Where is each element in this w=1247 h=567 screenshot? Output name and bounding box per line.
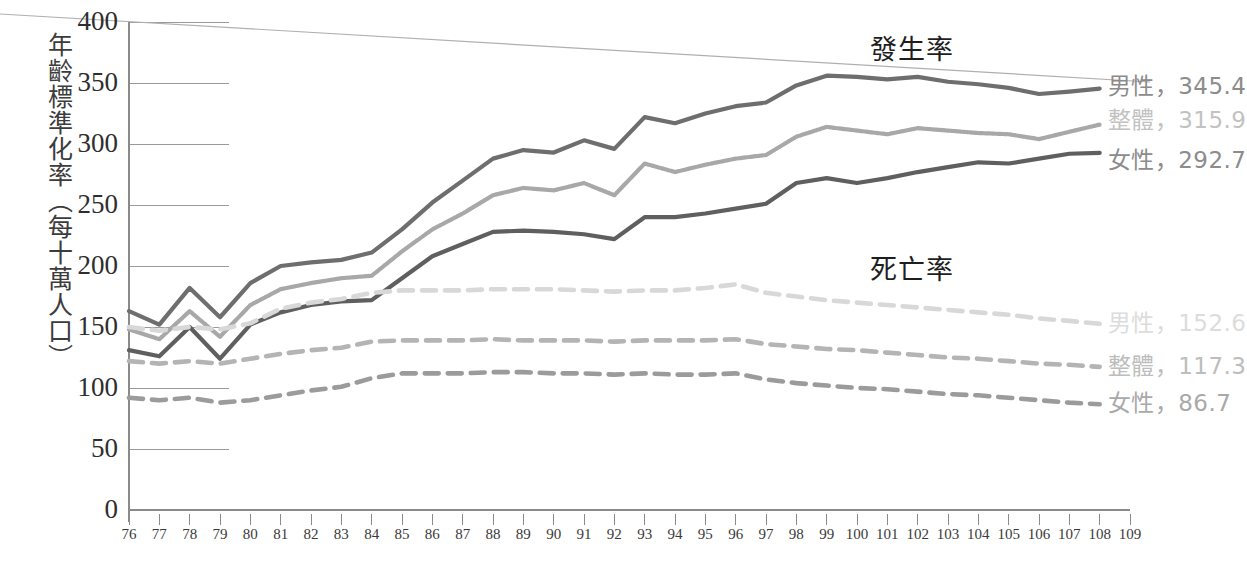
series-lines (129, 76, 1100, 405)
incidence-group-title: 發生率 (870, 28, 954, 67)
x-tick-label: 109 (1110, 527, 1150, 542)
y-tick-label: 150 (58, 313, 118, 340)
series-line (129, 153, 1100, 359)
legend-label-incidence-female: 女性，292.7 (1108, 149, 1247, 172)
y-tick-label: 0 (58, 496, 118, 523)
gridlines (129, 22, 229, 510)
legend-label-incidence-male: 男性，345.4 (1108, 75, 1247, 98)
y-tick-label: 250 (58, 191, 118, 218)
y-tick-label: 350 (58, 69, 118, 96)
series-line (129, 76, 1100, 325)
mortality-group-title: 死亡率 (870, 248, 954, 287)
y-tick-label: 100 (58, 374, 118, 401)
y-tick-label: 400 (58, 8, 118, 35)
legend-label-mortality-total: 整體，117.3 (1108, 355, 1247, 378)
x-tick-marks (129, 514, 1130, 525)
series-line (129, 339, 1100, 367)
y-tick-label: 200 (58, 252, 118, 279)
y-tick-label: 300 (58, 130, 118, 157)
series-line (129, 372, 1100, 404)
scan-artifact-line (0, 14, 1150, 82)
legend-label-mortality-female: 女性，86.7 (1108, 392, 1232, 415)
axis-lines (129, 22, 1130, 522)
series-line (129, 125, 1100, 340)
legend-label-incidence-total: 整體，315.9 (1108, 109, 1247, 132)
legend-label-mortality-male: 男性，152.6 (1108, 312, 1247, 335)
y-tick-label: 50 (58, 435, 118, 462)
